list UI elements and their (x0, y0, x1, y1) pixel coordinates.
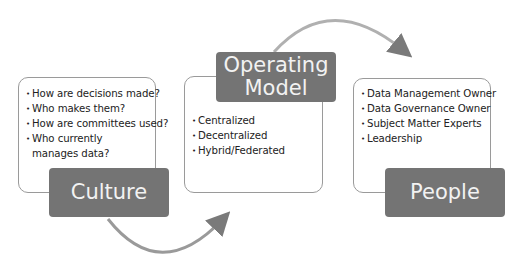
operating-model-items: Centralized Decentralized Hybrid/Federat… (191, 114, 318, 159)
operating-model-label: Operating Model (216, 52, 336, 102)
culture-label: Culture (49, 168, 169, 217)
list-item: Decentralized (191, 129, 318, 144)
list-item: Hybrid/Federated (191, 144, 318, 159)
list-item: Data Management Owner (360, 87, 486, 102)
arrow-operating-to-people (274, 20, 403, 52)
people-items: Data Management Owner Data Governance Ow… (360, 87, 486, 147)
list-item: Subject Matter Experts (360, 117, 486, 132)
list-item: Who currently manages data? (25, 132, 144, 160)
list-item: How are decisions made? (25, 87, 151, 102)
culture-items: How are decisions made? Who makes them? … (25, 87, 151, 160)
list-item: Leadership (360, 132, 486, 147)
operating-model-label-line1: Operating (224, 54, 329, 77)
list-item: Data Governance Owner (360, 102, 486, 117)
list-item: How are committees used? (25, 117, 151, 132)
arrow-culture-to-operating (108, 219, 222, 252)
list-item: Who makes them? (25, 102, 151, 117)
list-item: Centralized (191, 114, 318, 129)
operating-model-label-line2: Model (244, 77, 307, 100)
people-label: People (385, 168, 505, 217)
